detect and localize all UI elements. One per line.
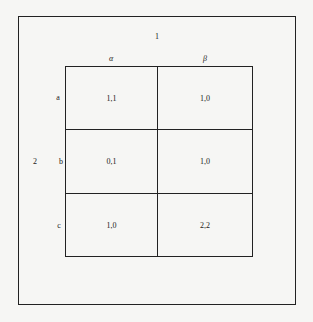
column-label-beta: β [203, 55, 207, 63]
player1-label: 1 [155, 33, 159, 41]
player2-label: 2 [33, 158, 37, 166]
row-label-a: a [56, 94, 60, 102]
payoff-cell: 0,1 [66, 130, 158, 194]
payoff-matrix: 1,1 1,0 0,1 1,0 1,0 2,2 [65, 66, 253, 257]
payoff-cell: 1,0 [158, 130, 252, 194]
payoff-value: 1,0 [200, 94, 210, 103]
column-label-alpha: α [109, 55, 113, 63]
payoff-value: 0,1 [107, 157, 117, 166]
payoff-value: 2,2 [200, 221, 210, 230]
payoff-cell: 1,0 [66, 194, 158, 256]
payoff-value: 1,0 [107, 221, 117, 230]
payoff-cell: 2,2 [158, 194, 252, 256]
row-label-b: b [59, 158, 63, 166]
payoff-value: 1,0 [200, 157, 210, 166]
payoff-cell: 1,1 [66, 67, 158, 130]
row-label-c: c [57, 222, 61, 230]
payoff-cell: 1,0 [158, 67, 252, 130]
payoff-value: 1,1 [107, 94, 117, 103]
figure-page: 1 2 α β a b c 1,1 1,0 0,1 1,0 1,0 2,2 [0, 0, 313, 322]
